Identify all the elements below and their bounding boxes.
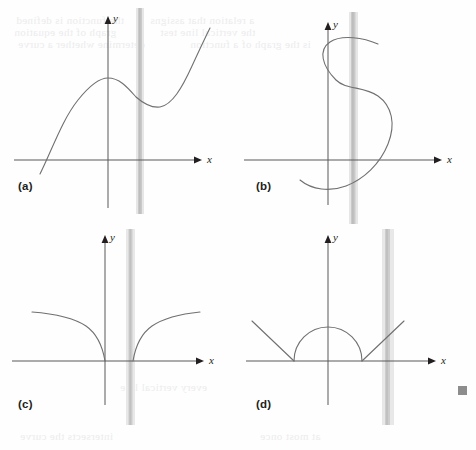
x-axis-label-c: x — [208, 354, 214, 366]
x-axis-b — [244, 157, 442, 164]
curve-a — [40, 28, 210, 174]
panel-c: x y (c) — [0, 225, 238, 450]
panel-label-d: (d) — [256, 398, 271, 410]
panel-label-a: (a) — [18, 180, 33, 192]
y-axis-d — [325, 235, 332, 405]
end-of-section-marker — [458, 386, 467, 395]
panel-a: x y (a) — [0, 0, 238, 225]
y-axis-label-b: y — [332, 18, 338, 30]
curve-d-left-ray — [252, 321, 294, 361]
y-axis-label-d: y — [332, 231, 338, 243]
vertical-test-line-c — [126, 229, 135, 425]
y-axis-label-c: y — [109, 231, 115, 243]
vertical-line-test-figure: x y (a) x y (b) — [0, 0, 476, 450]
vertical-test-line-d — [382, 229, 394, 425]
y-axis-a — [105, 16, 112, 208]
x-axis-label-d: x — [440, 354, 446, 366]
panel-b: x y (b) — [238, 0, 476, 225]
vertical-test-line-a — [136, 8, 144, 214]
x-axis-c — [12, 358, 204, 365]
y-axis-label-a: y — [112, 12, 118, 24]
panel-d: x y (d) — [238, 225, 476, 450]
x-axis-label-b: x — [446, 153, 452, 165]
x-axis-d — [246, 358, 436, 365]
y-axis-c — [102, 235, 109, 405]
vertical-test-line-b — [349, 12, 358, 224]
panel-label-b: (b) — [256, 180, 271, 192]
x-axis-label-a: x — [206, 153, 212, 165]
y-axis-b — [325, 22, 332, 205]
curve-c-left — [32, 312, 105, 361]
panel-label-c: (c) — [18, 398, 33, 410]
curve-c-right — [133, 312, 200, 361]
curve-b — [300, 38, 392, 190]
